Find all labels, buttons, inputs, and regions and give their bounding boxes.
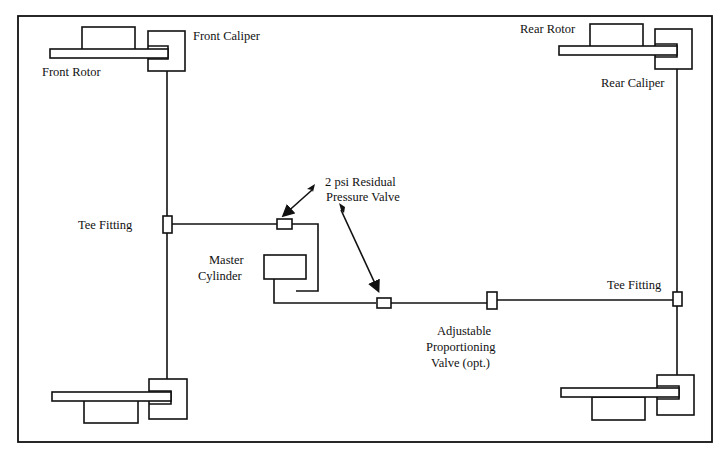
front-residual-valve bbox=[277, 219, 292, 229]
tee-fitting-right-label: Tee Fitting bbox=[607, 278, 662, 292]
rear-top-rotor-disc bbox=[559, 46, 677, 55]
front-caliper-label: Front Caliper bbox=[193, 29, 261, 43]
front-bottom-brake bbox=[52, 379, 187, 423]
prop-valve-label-2: Proportioning bbox=[426, 340, 496, 354]
rear-rotor-label: Rear Rotor bbox=[520, 22, 576, 36]
residual-valve-arrow-rear bbox=[339, 203, 378, 290]
master-cylinder-label-1: Master bbox=[209, 253, 245, 267]
proportioning-valve bbox=[487, 292, 497, 309]
residual-valve-label-1: 2 psi Residual bbox=[325, 175, 396, 189]
rear-bottom-rotor-disc bbox=[561, 388, 679, 397]
rear-residual-valve bbox=[377, 298, 391, 308]
front-tee-fitting bbox=[163, 216, 172, 233]
front-bottom-rotor-hub bbox=[84, 400, 138, 423]
prop-valve-label-3: Valve (opt.) bbox=[431, 356, 490, 370]
rear-top-brake bbox=[559, 24, 692, 69]
master-cylinder-label-2: Cylinder bbox=[198, 269, 243, 283]
rear-bottom-rotor-hub bbox=[592, 397, 645, 420]
brake-diagram: Front Caliper Front Rotor Rear Rotor Rea… bbox=[0, 0, 723, 450]
rear-bottom-brake bbox=[561, 375, 694, 420]
rear-caliper-label: Rear Caliper bbox=[601, 76, 665, 90]
residual-valve-arrow-front bbox=[284, 184, 315, 215]
rear-tee-fitting bbox=[673, 292, 682, 306]
front-top-rotor-hub bbox=[82, 27, 135, 50]
rear-circuit-from-master bbox=[274, 279, 376, 303]
front-top-rotor-disc bbox=[50, 49, 168, 58]
tee-fitting-left-label: Tee Fitting bbox=[78, 218, 133, 232]
residual-valve-label-2: Pressure Valve bbox=[326, 190, 400, 204]
rear-top-rotor-hub bbox=[590, 24, 643, 47]
prop-valve-label-1: Adjustable bbox=[437, 324, 492, 338]
master-cylinder bbox=[264, 255, 306, 279]
front-bottom-rotor-disc bbox=[52, 392, 171, 401]
front-rotor-label: Front Rotor bbox=[42, 65, 102, 79]
